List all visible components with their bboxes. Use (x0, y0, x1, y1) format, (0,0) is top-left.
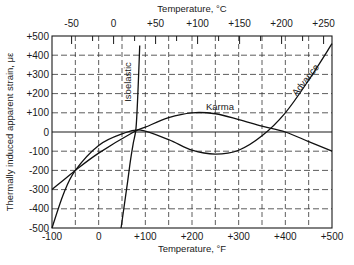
x-axis-label: Temperature, °F (158, 243, 226, 254)
y-tick-label: 0 (43, 127, 49, 138)
x2-tick-label: +100 (186, 18, 209, 29)
y-tick-label: -500 (29, 223, 49, 234)
karma-label: Karma (206, 101, 235, 112)
x2-tick-label: +200 (270, 18, 293, 29)
x2-tick-labels: -500+50+100+150+200+250 (64, 18, 335, 29)
y-tick-label: +300 (26, 69, 49, 80)
y-tick-label: -200 (29, 165, 49, 176)
x-tick-label: +300 (227, 231, 250, 242)
chart: -1000+100+200+300+400+500 -500+50+100+15… (0, 0, 354, 265)
x2-tick-label: -50 (64, 18, 79, 29)
x2-tick-label: +150 (228, 18, 251, 29)
y-tick-label: +100 (26, 107, 49, 118)
y-tick-label: -100 (29, 146, 49, 157)
x-tick-label: 0 (96, 231, 102, 242)
x2-tick-label: +50 (147, 18, 164, 29)
x-tick-labels: -1000+100+200+300+400+500 (42, 231, 344, 242)
y-tick-label: +400 (26, 50, 49, 61)
x-tick-label: +400 (274, 231, 297, 242)
x-tick-label: +100 (134, 231, 157, 242)
y-tick-label: +200 (26, 88, 49, 99)
x-tick-label: +500 (321, 231, 344, 242)
x2-axis-label: Temperature, °C (157, 3, 226, 14)
y-tick-label: -300 (29, 184, 49, 195)
isoelastic-label: Isoelastic (122, 62, 133, 102)
x-tick-label: +200 (181, 231, 204, 242)
advance-label: Advance (290, 62, 321, 98)
celsius-ticks (72, 36, 324, 44)
y-tick-label: +500 (26, 31, 49, 42)
x2-tick-label: +250 (312, 18, 335, 29)
y-tick-label: -400 (29, 203, 49, 214)
x2-tick-label: 0 (111, 18, 117, 29)
y-axis-label: Thermally induced apparent strain, με (4, 52, 15, 211)
y-tick-labels: +500+400+300+200+1000-100-200-300-400-50… (26, 31, 49, 234)
